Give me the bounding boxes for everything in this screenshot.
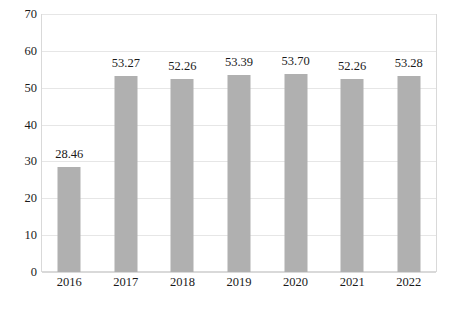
bar-group: 52.26 [324,14,381,272]
bar-value-label: 53.27 [112,57,140,70]
bar[interactable] [58,167,81,272]
x-axis-tick-label: 2017 [98,276,155,289]
bar[interactable] [284,74,307,272]
bar[interactable] [171,79,194,272]
bar-value-label: 53.70 [282,55,310,68]
bar-group: 53.28 [380,14,437,272]
x-axis-tick-label: 2022 [380,276,437,289]
x-axis-tick-label: 2020 [267,276,324,289]
bar-group: 53.70 [267,14,324,272]
y-axis-tick-label: 10 [3,229,37,242]
x-axis-tick-label: 2016 [41,276,98,289]
bar-group: 52.26 [154,14,211,272]
bar-chart: 010203040506070 28.4653.2752.2653.3953.7… [0,0,451,309]
bars-layer: 28.4653.2752.2653.3953.7052.2653.28 [41,14,437,272]
y-axis-tick-label: 70 [3,8,37,21]
bar-value-label: 28.46 [55,148,83,161]
y-axis-tick-label: 50 [3,81,37,94]
y-axis-tick-label: 0 [3,266,37,279]
y-axis: 010203040506070 [0,14,37,272]
x-axis-tick-label: 2019 [211,276,268,289]
bar[interactable] [114,76,137,272]
gridline [42,272,436,273]
bar-value-label: 52.26 [168,60,196,73]
bar-value-label: 53.39 [225,56,253,69]
bar-group: 28.46 [41,14,98,272]
y-axis-tick-label: 40 [3,118,37,131]
x-axis-tick-label: 2021 [324,276,381,289]
y-axis-tick-label: 20 [3,192,37,205]
bar[interactable] [397,76,420,272]
bar[interactable] [227,75,250,272]
x-axis: 2016201720182019202020212022 [41,276,437,300]
bar-value-label: 52.26 [338,60,366,73]
y-axis-tick-label: 60 [3,45,37,58]
y-axis-tick-label: 30 [3,155,37,168]
bar-group: 53.27 [98,14,155,272]
x-axis-tick-label: 2018 [154,276,211,289]
bar[interactable] [341,79,364,272]
bar-value-label: 53.28 [395,57,423,70]
bar-group: 53.39 [211,14,268,272]
